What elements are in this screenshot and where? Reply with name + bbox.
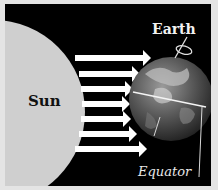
sun-label: Sun — [28, 92, 61, 110]
earth-label: Earth — [152, 21, 196, 37]
equator-label: Equator — [138, 164, 191, 179]
diagram-panel: Sun Earth Equator — [5, 4, 211, 186]
